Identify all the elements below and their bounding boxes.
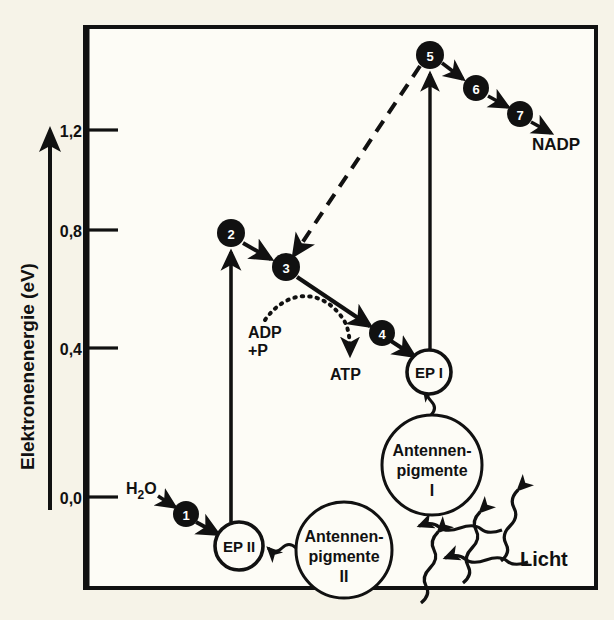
carrier-node-1-label: 1 [182, 508, 189, 523]
carrier-node-6-label: 6 [472, 82, 479, 97]
light-label: Licht [520, 548, 568, 570]
h2o-o: O [144, 480, 156, 497]
antenna-2-line3: II [340, 568, 349, 585]
antenna-2-line1: Antennen- [304, 528, 383, 545]
energy-up-arrow-icon [39, 126, 61, 510]
antenna-2-line2: pigmente [308, 548, 379, 565]
carrier-node-3[interactable]: 3 [272, 253, 300, 281]
y-tick-label-12: 1,2 [60, 123, 82, 140]
carrier-node-7[interactable]: 7 [507, 101, 533, 127]
photosystem-ep1-label: EP I [415, 364, 443, 381]
molecule-nadp: NADP [532, 135, 580, 154]
antenna-1-line2: pigmente [396, 462, 467, 479]
carrier-node-7-label: 7 [516, 108, 523, 123]
molecule-atp: ATP [330, 366, 361, 383]
antenna-pigments-2[interactable]: Antennen- pigmente II [296, 502, 392, 598]
carrier-node-5-label: 5 [426, 49, 433, 64]
photosystem-ep2[interactable]: EP II [215, 522, 263, 570]
carrier-node-6[interactable]: 6 [463, 75, 489, 101]
molecule-adp-line1: ADP [248, 324, 282, 341]
carrier-node-2-label: 2 [227, 227, 234, 242]
y-axis-title: Elektronenenergie (eV) [17, 263, 38, 470]
y-tick-label-00: 0,0 [60, 490, 82, 507]
antenna-1-line1: Antennen- [392, 442, 471, 459]
y-tick-label-08: 0,8 [60, 223, 82, 240]
photosystem-ep1[interactable]: EP I [407, 350, 451, 394]
carrier-node-1[interactable]: 1 [173, 501, 199, 527]
y-tick-label-04: 0,4 [60, 341, 82, 358]
carrier-node-5[interactable]: 5 [416, 41, 444, 69]
antenna-1-line3: I [430, 482, 434, 499]
photosystem-ep2-label: EP II [223, 538, 255, 555]
carrier-node-2[interactable]: 2 [217, 219, 245, 247]
h2o-h: H [126, 480, 138, 497]
carrier-node-3-label: 3 [282, 261, 289, 276]
z-scheme-photosynthesis-diagram: 1,2 0,8 0,4 0,0 Elektronenenergie (eV) [0, 0, 614, 620]
antenna-pigments-1[interactable]: Antennen- pigmente I [382, 415, 482, 515]
carrier-node-4-label: 4 [378, 327, 386, 342]
carrier-node-4[interactable]: 4 [369, 320, 395, 346]
molecule-adp-line2: +P [248, 342, 268, 359]
